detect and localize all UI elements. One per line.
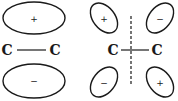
carbon-atom-right: C xyxy=(151,42,162,58)
lower-right-sign: + xyxy=(156,78,164,88)
upper-right-sign: − xyxy=(156,14,164,24)
bonding-pi-orbital: + C C − xyxy=(1,2,65,98)
mo-diagram: + C C − + − C C − + xyxy=(0,0,178,101)
lower-lobe-sign: − xyxy=(30,76,38,86)
carbon-atom-right: C xyxy=(49,42,60,58)
carbon-atom-left: C xyxy=(1,42,12,58)
upper-lobe-sign: + xyxy=(30,14,38,24)
carbon-atom-left: C xyxy=(107,42,118,58)
antibonding-pi-star-orbital: + − C C − + xyxy=(85,0,178,101)
upper-left-sign: + xyxy=(100,14,108,24)
lower-left-sign: − xyxy=(100,78,108,88)
